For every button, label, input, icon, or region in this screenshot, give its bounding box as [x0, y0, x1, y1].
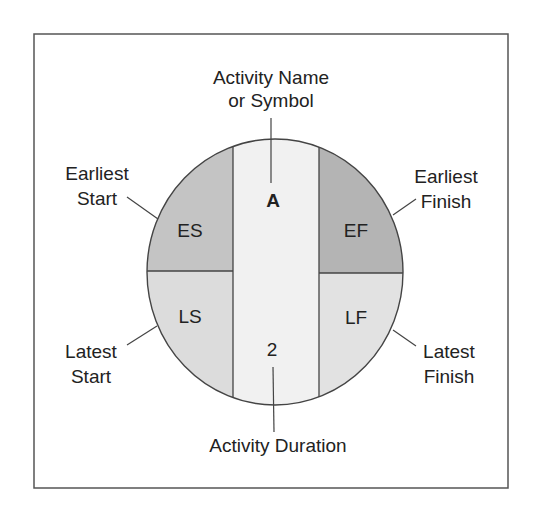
ls-region: [140, 271, 233, 411]
leader-earliest-start: [127, 197, 158, 219]
callout-activity-name: Activity Name: [213, 67, 329, 88]
callout-latest-finish-line2: Finish: [424, 366, 475, 387]
callout-earliest-start: Earliest: [65, 163, 129, 184]
symbol-value: A: [266, 190, 280, 211]
callout-activity-duration: Activity Duration: [209, 435, 346, 456]
lf-label: LF: [345, 307, 367, 328]
activity-node: [140, 130, 409, 411]
callout-earliest-finish-line2: Finish: [421, 191, 472, 212]
es-label: ES: [177, 220, 202, 241]
callout-earliest-start-line2: Start: [77, 188, 118, 209]
leader-latest-start: [127, 326, 157, 345]
ef-region: [319, 130, 409, 273]
diagram-canvas: A ES EF LS LF 2 Activity Name or Symbol …: [0, 0, 535, 511]
leader-latest-finish: [393, 330, 416, 346]
ls-label: LS: [178, 306, 201, 327]
es-region: [140, 130, 233, 271]
callout-activity-name-line2: or Symbol: [228, 90, 314, 111]
leader-earliest-finish: [393, 199, 416, 215]
center-column: [233, 130, 319, 411]
ef-label: EF: [344, 220, 368, 241]
callout-earliest-finish: Earliest: [414, 166, 478, 187]
callout-latest-start: Latest: [65, 341, 117, 362]
duration-value: 2: [267, 339, 278, 360]
callout-latest-start-line2: Start: [71, 366, 112, 387]
callout-latest-finish: Latest: [423, 341, 475, 362]
